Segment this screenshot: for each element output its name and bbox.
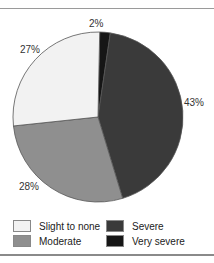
bottom-rule: [0, 254, 214, 256]
label-severe: 43%: [184, 97, 204, 108]
legend-swatch-very-severe: [106, 235, 124, 247]
label-slight-to-none: 27%: [20, 44, 40, 55]
legend-label: Severe: [132, 221, 164, 232]
legend-label: Moderate: [39, 236, 81, 247]
label-very-severe: 2%: [89, 18, 103, 29]
label-moderate: 28%: [19, 181, 39, 192]
legend-swatch-slight-to-none: [13, 220, 31, 232]
legend-item-severe: Severe: [106, 220, 164, 232]
legend-label: Slight to none: [39, 221, 100, 232]
legend-item-slight-to-none: Slight to none: [13, 220, 100, 232]
legend-label: Very severe: [132, 236, 185, 247]
legend-swatch-severe: [106, 220, 124, 232]
legend-item-very-severe: Very severe: [106, 235, 185, 247]
legend-item-moderate: Moderate: [13, 235, 81, 247]
legend-swatch-moderate: [13, 235, 31, 247]
